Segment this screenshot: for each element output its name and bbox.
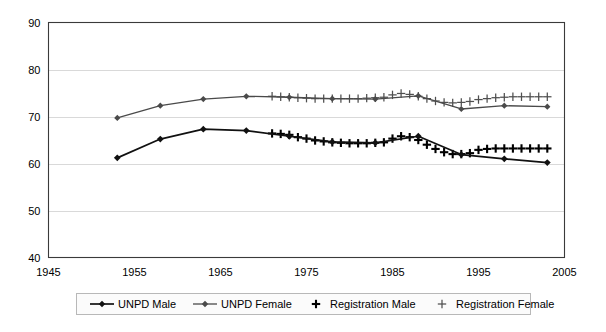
legend-label-2: Registration Male: [330, 298, 416, 310]
x-tick-label-1945: 1945: [36, 266, 60, 278]
chart-legend: UNPD MaleUNPD FemaleRegistration MaleReg…: [77, 294, 555, 315]
legend-label-3: Registration Female: [456, 298, 554, 310]
x-tick-label-1965: 1965: [208, 266, 232, 278]
y-tick-label-50: 50: [28, 205, 40, 217]
chart-background: [0, 0, 606, 332]
y-tick-label-80: 80: [28, 64, 40, 76]
legend-label-0: UNPD Male: [118, 298, 176, 310]
y-tick-label-60: 60: [28, 158, 40, 170]
y-tick-label-40: 40: [28, 252, 40, 264]
x-tick-label-1985: 1985: [380, 266, 404, 278]
x-tick-label-1995: 1995: [466, 266, 490, 278]
y-tick-label-90: 90: [28, 17, 40, 29]
x-tick-label-1975: 1975: [294, 266, 318, 278]
x-tick-label-1955: 1955: [122, 266, 146, 278]
life-expectancy-line-chart: 405060708090 194519551965197519851995200…: [0, 0, 606, 332]
x-tick-label-2005: 2005: [552, 266, 576, 278]
legend-label-1: UNPD Female: [221, 298, 292, 310]
y-tick-label-70: 70: [28, 111, 40, 123]
chart-page: 405060708090 194519551965197519851995200…: [0, 0, 606, 332]
